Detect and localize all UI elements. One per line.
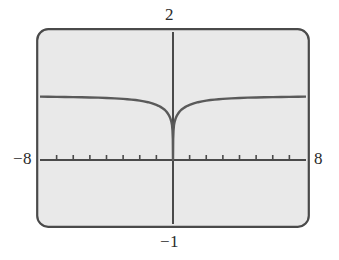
y-max-label: 2: [0, 6, 339, 23]
x-min-label: −8: [2, 150, 32, 167]
x-max-label: 8: [314, 150, 338, 167]
y-min-label: −1: [0, 233, 339, 250]
calculator-screen: [36, 28, 310, 228]
graph-figure: 2 −8 8 −1: [0, 0, 339, 260]
